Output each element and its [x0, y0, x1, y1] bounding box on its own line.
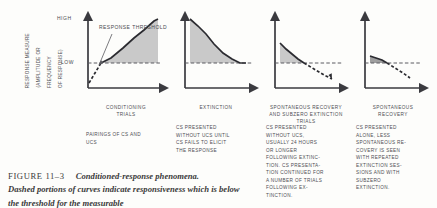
- response-threshold-annotation: RESPONSE THRESHOLD: [99, 24, 167, 31]
- panel-description-spontaneous-recovery-subzero: CS PRESENTED WITHOUT UCS, USUALLY 24 HOU…: [266, 124, 336, 199]
- chart-panel-spontaneous-recovery: [356, 8, 430, 96]
- panel-title-spontaneous-recovery: SPONTANEOUS RECOVERY: [354, 104, 432, 118]
- panel-title-spontaneous-recovery-subzero: SPONTANEOUS RECOVERY AND SUBZERO EXTINCT…: [262, 104, 350, 125]
- panel-title-conditioning: CONDITIONING TRIALS: [86, 104, 166, 118]
- panel-title-extinction: EXTINCTION: [176, 104, 256, 111]
- y-axis-label-line-4: OF RESPONSE): [59, 49, 64, 88]
- response-curve-dashed: [89, 63, 101, 83]
- response-curve-dashed: [304, 63, 332, 79]
- figure-caption: FIGURE 11–3 Conditioned-response phenome…: [8, 170, 252, 208]
- extinction-plot: [176, 8, 260, 96]
- figure-title: Conditioned-response phenomena.: [76, 171, 199, 181]
- chart-panel-extinction: [176, 8, 260, 96]
- y-axis-label-line-2: (AMPLITUDE OR: [37, 47, 42, 88]
- figure-caption-body: Dashed portions of curves indicate respo…: [8, 183, 252, 208]
- panel-description-extinction: CS PRESENTED WITHOUT UCS UNTIL CS FAILS …: [176, 124, 248, 154]
- spontaneous-recovery-subzero-plot: [266, 8, 350, 96]
- chart-panel-conditioning: [78, 8, 170, 96]
- y-tick-high: HIGH: [57, 15, 72, 21]
- conditioning-plot: [78, 8, 170, 96]
- spontaneous-recovery-plot: [356, 8, 430, 96]
- y-axis-label-line-1: RESPONSE MEASURE: [26, 33, 31, 88]
- y-tick-low: LOW: [61, 59, 74, 65]
- panel-description-spontaneous-recovery: CS PRESENTED ALONE, LESS SPONTANEOUS RE-…: [356, 124, 428, 192]
- y-axis-label-line-3: FREQUENCY: [48, 56, 53, 88]
- figure-number: FIGURE 11–3: [8, 171, 65, 181]
- chart-panel-spontaneous-recovery-subzero: [266, 8, 350, 96]
- response-curve-dashed: [387, 63, 410, 78]
- panel-description-conditioning: PAIRINGS OF CS AND UCS: [86, 131, 162, 146]
- figure-root: RESPONSE MEASURE (AMPLITUDE OR FREQUENCY…: [0, 0, 437, 208]
